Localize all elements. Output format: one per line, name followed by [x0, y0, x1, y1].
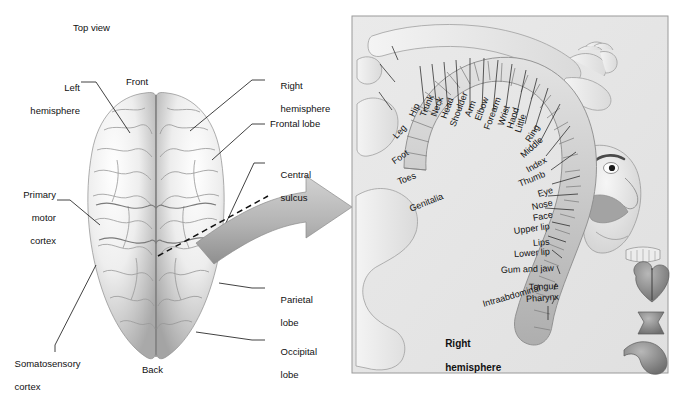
label-occipital-lobe-line2: lobe: [281, 369, 299, 380]
label-central-sulcus-line2: sulcus: [281, 192, 308, 203]
label-back: Back: [142, 364, 163, 376]
figure-artwork: [0, 0, 688, 399]
label-somatosensory-cortex-line2: cortex: [15, 381, 41, 392]
body-map-label-gum-and-jaw: Gum and jaw: [501, 264, 554, 275]
label-left-hemisphere: Left hemisphere: [0, 70, 80, 128]
label-right-hemisphere-line2: hemisphere: [281, 103, 331, 114]
label-parietal-lobe-line1: Parietal: [281, 294, 313, 305]
brain-homunculus-figure: Top view Left hemisphere Primary motor c…: [0, 0, 688, 399]
label-central-sulcus: Central sulcus: [270, 157, 311, 215]
label-somatosensory-cortex-line1: Somatosensory: [15, 358, 81, 369]
label-left-hemisphere-line1: Left: [64, 82, 80, 93]
label-left-hemisphere-line2: hemisphere: [30, 105, 80, 116]
gum-and-jaw-icon: [626, 247, 660, 262]
label-right-hemisphere-panel-line1: Right: [445, 338, 471, 349]
label-primary-motor-cortex: Primary motor cortex: [0, 177, 56, 258]
label-occipital-lobe: Occipital lobe: [270, 334, 317, 392]
label-primary-motor-cortex-line3: cortex: [30, 235, 56, 246]
label-central-sulcus-line1: Central: [281, 169, 312, 180]
label-primary-motor-cortex-line2: motor: [32, 212, 56, 223]
top-view-heading: Top view: [73, 22, 110, 34]
label-frontal-lobe: Frontal lobe: [270, 118, 320, 130]
homunculus-panel: [352, 16, 669, 374]
label-front: Front: [126, 76, 148, 88]
label-primary-motor-cortex-line1: Primary: [23, 189, 56, 200]
label-parietal-lobe: Parietal lobe: [270, 282, 313, 340]
label-right-hemisphere-panel: Right hemisphere: [434, 326, 501, 386]
label-right-hemisphere-panel-line2: hemisphere: [445, 362, 501, 373]
label-right-hemisphere-line1: Right: [281, 80, 303, 91]
label-parietal-lobe-line2: lobe: [281, 317, 299, 328]
label-somatosensory-cortex: Somatosensory cortex: [4, 346, 81, 399]
label-right-hemisphere: Right hemisphere: [270, 68, 330, 126]
label-occipital-lobe-line1: Occipital: [281, 346, 317, 357]
